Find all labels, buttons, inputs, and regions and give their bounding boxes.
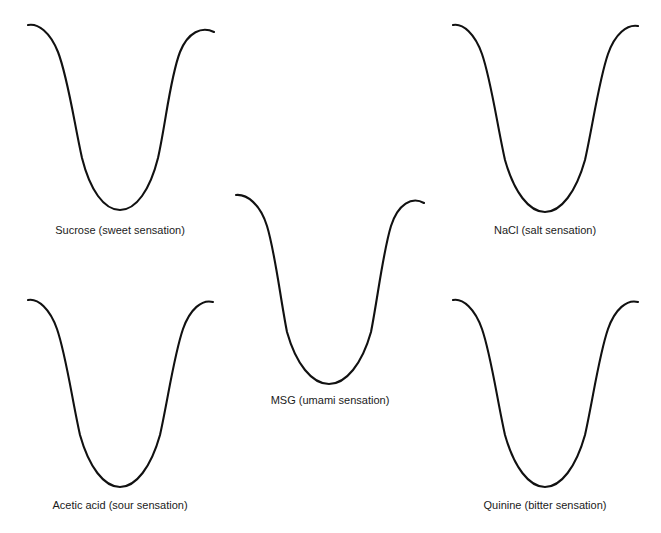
tongue-outline-icon <box>222 188 438 388</box>
panel-label-nacl: NaCl (salt sensation) <box>437 224 653 237</box>
panel-sucrose: Sucrose (sweet sensation) <box>12 18 228 218</box>
panel-label-msg: MSG (umami sensation) <box>222 394 438 407</box>
panel-acetic-acid: Acetic acid (sour sensation) <box>12 293 228 493</box>
panel-nacl: NaCl (salt sensation) <box>437 18 653 218</box>
scan-header-strip <box>135 0 435 4</box>
panel-label-acetic-acid: Acetic acid (sour sensation) <box>12 499 228 512</box>
tongue-outline-icon <box>437 18 653 218</box>
panel-msg: MSG (umami sensation) <box>222 188 438 388</box>
tongue-outline-icon <box>12 293 228 493</box>
tongue-outline-icon <box>437 293 653 493</box>
taste-sensation-figure: Sucrose (sweet sensation) NaCl (salt sen… <box>0 0 661 533</box>
panel-label-quinine: Quinine (bitter sensation) <box>437 499 653 512</box>
panel-label-sucrose: Sucrose (sweet sensation) <box>12 224 228 237</box>
panel-quinine: Quinine (bitter sensation) <box>437 293 653 493</box>
tongue-outline-icon <box>12 18 228 218</box>
